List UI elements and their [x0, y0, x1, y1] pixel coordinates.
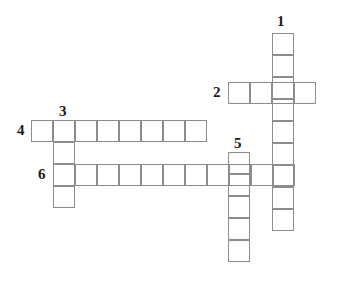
crossword-cell[interactable] [141, 120, 163, 142]
crossword-cell[interactable] [163, 120, 185, 142]
crossword-cell[interactable] [272, 209, 294, 231]
crossword-cell[interactable] [272, 143, 294, 165]
crossword-cell[interactable] [272, 33, 294, 55]
crossword-cell[interactable] [53, 164, 75, 186]
crossword-cell[interactable] [53, 186, 75, 208]
crossword-cell[interactable] [163, 164, 185, 186]
crossword-cell[interactable] [228, 196, 250, 218]
crossword-cell[interactable] [141, 164, 163, 186]
crossword-cell[interactable] [75, 164, 97, 186]
crossword-cell[interactable] [229, 164, 251, 186]
crossword-cell[interactable] [228, 218, 250, 240]
clue-number-4: 4 [17, 123, 25, 138]
crossword-cell[interactable] [272, 55, 294, 77]
crossword-cell[interactable] [97, 120, 119, 142]
crossword-cell[interactable] [31, 120, 53, 142]
clue-number-2: 2 [213, 85, 221, 100]
crossword-cell[interactable] [228, 240, 250, 262]
crossword-cell[interactable] [119, 164, 141, 186]
clue-number-1: 1 [277, 14, 285, 29]
crossword-cell[interactable] [53, 120, 75, 142]
clue-number-6: 6 [38, 167, 46, 182]
crossword-cell[interactable] [294, 82, 316, 104]
clue-number-5: 5 [234, 136, 242, 151]
crossword-cell[interactable] [272, 82, 294, 104]
crossword-cell[interactable] [53, 142, 75, 164]
crossword-cell[interactable] [273, 164, 295, 186]
crossword-cell[interactable] [97, 164, 119, 186]
crossword-cell[interactable] [119, 120, 141, 142]
clue-number-3: 3 [59, 104, 67, 119]
crossword-cell[interactable] [185, 120, 207, 142]
crossword-cell[interactable] [228, 82, 250, 104]
crossword-cell[interactable] [251, 164, 273, 186]
crossword-puzzle: 123456 [0, 0, 342, 286]
crossword-cell[interactable] [185, 164, 207, 186]
crossword-cell[interactable] [207, 164, 229, 186]
crossword-cell[interactable] [272, 121, 294, 143]
crossword-cell[interactable] [75, 120, 97, 142]
crossword-cell[interactable] [272, 187, 294, 209]
crossword-cell[interactable] [250, 82, 272, 104]
